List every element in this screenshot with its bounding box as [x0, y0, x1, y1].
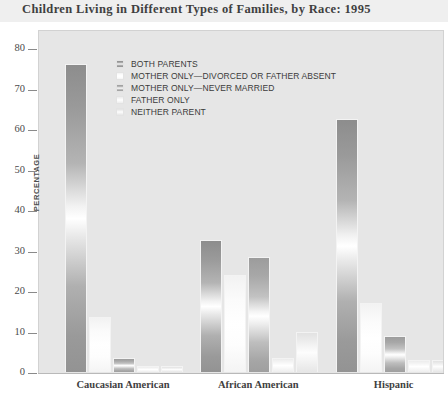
x-axis-tick-label: Caucasian American — [53, 379, 193, 390]
y-axis-tick-label: 60 — [1, 123, 25, 134]
x-axis-line — [38, 373, 444, 374]
bar — [137, 366, 159, 372]
legend-item: NEITHER PARENT — [116, 106, 336, 118]
bar — [65, 64, 87, 372]
y-axis-tick-mark — [28, 130, 37, 131]
y-axis-tick-mark — [28, 49, 37, 50]
bar — [200, 240, 222, 372]
legend-item: MOTHER ONLY—DIVORCED OR FATHER ABSENT — [116, 70, 336, 82]
bottom-strip — [0, 396, 448, 402]
bar — [89, 317, 111, 372]
legend-swatch-icon — [116, 84, 124, 92]
legend-item-label: MOTHER ONLY—NEVER MARRIED — [131, 83, 275, 93]
y-axis-tick-mark — [28, 333, 37, 334]
y-axis-tick-mark — [28, 292, 37, 293]
legend-item: FATHER ONLY — [116, 94, 336, 106]
legend-item-label: BOTH PARENTS — [131, 59, 198, 69]
y-axis-tick-mark — [28, 373, 37, 374]
y-axis-tick-label: 40 — [1, 204, 25, 215]
legend-item: MOTHER ONLY—NEVER MARRIED — [116, 82, 336, 94]
legend-item-label: MOTHER ONLY—DIVORCED OR FATHER ABSENT — [131, 71, 336, 81]
bar — [432, 360, 443, 372]
legend-item-label: NEITHER PARENT — [131, 107, 206, 117]
legend-swatch-icon — [116, 96, 124, 104]
bar — [336, 119, 358, 372]
y-axis-tick-mark — [28, 252, 37, 253]
bar — [408, 360, 430, 372]
y-axis-tick-label: 20 — [1, 285, 25, 296]
y-axis-tick-label: 70 — [1, 83, 25, 94]
bar — [224, 275, 246, 372]
y-axis-tick-mark — [28, 90, 37, 91]
chart-figure: Children Living in Different Types of Fa… — [0, 0, 448, 402]
y-axis-tick-label: 50 — [1, 164, 25, 175]
y-axis-tick-label: 0 — [1, 366, 25, 377]
bar — [248, 257, 270, 372]
bar — [360, 303, 382, 372]
chart-title: Children Living in Different Types of Fa… — [22, 2, 371, 17]
chart-legend: BOTH PARENTSMOTHER ONLY—DIVORCED OR FATH… — [116, 58, 336, 118]
legend-item: BOTH PARENTS — [116, 58, 336, 70]
y-axis-tick-label: 30 — [1, 245, 25, 256]
legend-swatch-icon — [116, 108, 124, 116]
y-axis-label: PERCENTAGE — [32, 138, 41, 228]
y-axis-tick-label: 10 — [1, 326, 25, 337]
x-axis-tick-label: Hispanic — [324, 379, 448, 390]
y-axis-tick-label: 80 — [1, 42, 25, 53]
x-axis-tick-label: African American — [188, 379, 328, 390]
bar — [384, 336, 406, 372]
legend-swatch-icon — [116, 72, 124, 80]
bar — [113, 358, 135, 372]
legend-swatch-icon — [116, 60, 124, 68]
bar — [272, 358, 294, 372]
bar — [296, 332, 318, 373]
legend-item-label: FATHER ONLY — [131, 95, 190, 105]
bar — [161, 366, 183, 372]
